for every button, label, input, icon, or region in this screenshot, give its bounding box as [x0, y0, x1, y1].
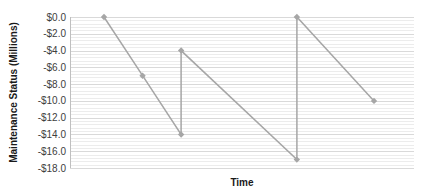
y-tick-label: $0.0: [47, 12, 67, 23]
y-tick-label: -$4.0: [43, 45, 66, 56]
y-axis-title: Maintenance Status (Millions): [8, 22, 19, 163]
y-tick-label: -$2.0: [43, 28, 66, 39]
gridlines: [70, 18, 414, 169]
y-tick-label: -$12.0: [38, 112, 67, 123]
y-tick-label: -$16.0: [38, 146, 67, 157]
y-tick-label: -$10.0: [38, 95, 67, 106]
y-tick-label: -$14.0: [38, 129, 67, 140]
y-tick-label: -$8.0: [43, 79, 66, 90]
data-series: [101, 14, 377, 163]
line-chart: $0.0-$2.0-$4.0-$6.0-$8.0-$10.0-$12.0-$14…: [0, 0, 430, 194]
y-tick-label: -$18.0: [38, 163, 67, 174]
y-tick-label: -$6.0: [43, 62, 66, 73]
y-axis-tick-labels: $0.0-$2.0-$4.0-$6.0-$8.0-$10.0-$12.0-$14…: [38, 12, 67, 174]
x-axis-title: Time: [230, 177, 254, 188]
